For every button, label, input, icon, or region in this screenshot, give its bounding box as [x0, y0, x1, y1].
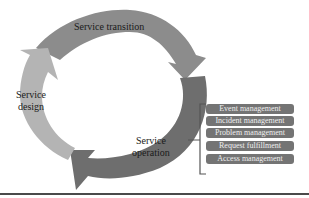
service-design-line1: Service: [16, 89, 46, 101]
service-design-line2: design: [16, 101, 46, 113]
process-event-management: Event management: [206, 104, 294, 114]
process-incident-management: Incident management: [206, 116, 294, 126]
service-operation-line1: Service: [132, 135, 170, 147]
lifecycle-diagram: [0, 0, 309, 198]
service-transition-label: Service transition: [74, 21, 144, 33]
process-problem-management: Problem management: [206, 128, 294, 138]
service-operation-arrow: [70, 76, 207, 190]
service-design-label: Service design: [16, 89, 46, 113]
process-access-management: Access management: [206, 154, 294, 164]
service-transition-text: Service transition: [74, 21, 144, 32]
service-operation-label: Service operation: [132, 135, 170, 159]
process-request-fulfillment: Request fulfillment: [206, 141, 294, 151]
service-operation-line2: operation: [132, 147, 170, 159]
bottom-divider: [0, 193, 309, 195]
